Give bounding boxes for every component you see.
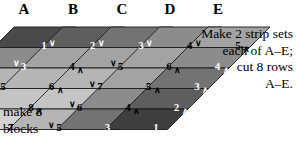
annotation-right-line-1: Make 2 strip sets <box>143 26 293 43</box>
annotation-right-line-2: each of A–E; <box>143 43 293 60</box>
annotation-left: make 8blocks <box>3 104 75 137</box>
annotation-right-line-4: A–E. <box>143 76 293 93</box>
annotation-left-line-1: make 8 <box>3 104 75 121</box>
annotation-right: Make 2 strip setseach of A–E;cut 8 rowsA… <box>143 26 293 92</box>
annotation-right-line-3: cut 8 rows <box>143 59 293 76</box>
strip-set-diagram: ABCDE 1∨3∨5∨7∨9∨2∨4∧6∧8∧73∨5∨7∨6∨5∨4∨6∧5… <box>0 0 296 147</box>
annotation-left-line-2: blocks <box>3 121 75 138</box>
